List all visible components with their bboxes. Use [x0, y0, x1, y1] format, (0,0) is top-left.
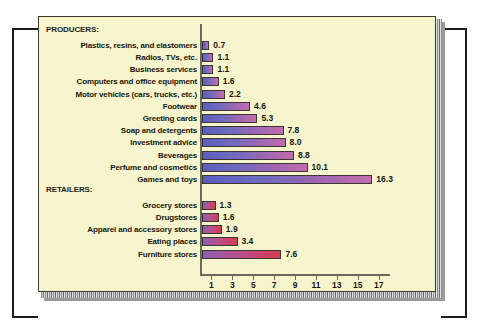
axis-tick-label: 7	[264, 280, 284, 290]
bar-value-label: 8.0	[290, 137, 302, 148]
bar-value-label: 1.1	[217, 52, 229, 63]
bracket-right-bottom-arm	[441, 316, 467, 318]
bar-category-label: Drugstores	[43, 212, 197, 223]
axis-tick-label: 15	[348, 280, 368, 290]
bar-row: Beverages8.8	[39, 150, 436, 162]
group-header-retailers: RETAILERS:	[46, 185, 92, 194]
bar-value-label: 7.6	[285, 249, 297, 260]
bar-category-label: Eating places	[43, 236, 197, 247]
bar-category-label: Business services	[43, 64, 197, 75]
chart-card: PRODUCERS:Plastics, resins, and elastome…	[38, 16, 436, 292]
bar-row: Perfume and cosmetics10.1	[39, 162, 436, 174]
bar-row: Games and toys16.3	[39, 174, 436, 186]
bar-row: Investment advice8.0	[39, 137, 436, 149]
bar-value-label: 3.4	[242, 236, 254, 247]
bar-category-label: Perfume and cosmetics	[43, 162, 197, 173]
bar-row: Plastics, resins, and elastomers0.7	[39, 40, 436, 52]
axis-tick-label: 17	[369, 280, 389, 290]
bar-row: Eating places3.4	[39, 236, 436, 248]
bar	[202, 65, 213, 74]
bar-value-label: 2.2	[229, 89, 241, 100]
bar	[202, 126, 284, 135]
bracket-left-bottom-arm	[12, 316, 38, 318]
group-header-producers: PRODUCERS:	[46, 25, 99, 34]
bar-row: Grocery stores1.3	[39, 200, 436, 212]
axis-tick-label: 13	[327, 280, 347, 290]
bracket-left-top-arm	[12, 28, 38, 30]
bar	[202, 138, 286, 147]
bar-category-label: Computers and office equipment	[43, 76, 197, 87]
axis-tick-label: 1	[201, 280, 221, 290]
bar-value-label: 1.1	[217, 64, 229, 75]
page-root: PRODUCERS:Plastics, resins, and elastome…	[0, 0, 479, 335]
bar	[202, 163, 308, 172]
bar-value-label: 10.1	[312, 162, 329, 173]
bar-category-label: Grocery stores	[43, 200, 197, 211]
bar-category-label: Motor vehicles (cars, trucks, etc.)	[43, 89, 197, 100]
bar-value-label: 7.8	[288, 125, 300, 136]
bar-category-label: Apparel and accessory stores	[43, 224, 197, 235]
bar	[202, 213, 219, 222]
bar-category-label: Greeting cards	[43, 113, 197, 124]
bracket-right-vertical	[465, 28, 467, 318]
bar	[202, 225, 222, 234]
bar-value-label: 0.7	[213, 40, 225, 51]
bar-row: Apparel and accessory stores1.9	[39, 224, 436, 236]
bar-category-label: Radios, TVs, etc.	[43, 52, 197, 63]
bar-category-label: Games and toys	[43, 174, 197, 185]
bar-value-label: 1.6	[223, 76, 235, 87]
axis-tick-label: 5	[243, 280, 263, 290]
bar	[202, 53, 213, 62]
bar	[202, 175, 372, 184]
axis-tick-label: 9	[285, 280, 305, 290]
bar-row: Business services1.1	[39, 64, 436, 76]
bar-value-label: 1.3	[220, 200, 232, 211]
bar-row: Footwear4.6	[39, 101, 436, 113]
bar	[202, 237, 238, 246]
bar-category-label: Furniture stores	[43, 249, 197, 260]
bar-value-label: 5.3	[261, 113, 273, 124]
bar-chart-plot: PRODUCERS:Plastics, resins, and elastome…	[39, 17, 435, 291]
axis-tick-label: 3	[222, 280, 242, 290]
bar-value-label: 4.6	[254, 101, 266, 112]
bar-row: Soap and detergents7.8	[39, 125, 436, 137]
bar-row: Greeting cards5.3	[39, 113, 436, 125]
bar	[202, 114, 257, 123]
bracket-left-vertical	[12, 28, 14, 318]
bar-value-label: 16.3	[376, 174, 393, 185]
bar-row: Radios, TVs, etc.1.1	[39, 52, 436, 64]
bar-value-label: 1.9	[226, 224, 238, 235]
bar	[202, 201, 216, 210]
bar	[202, 151, 294, 160]
bar	[202, 77, 219, 86]
bar	[202, 250, 281, 259]
bar	[202, 41, 209, 50]
bar-row: Computers and office equipment1.6	[39, 76, 436, 88]
bar-value-label: 8.8	[298, 150, 310, 161]
bar-row: Furniture stores7.6	[39, 249, 436, 261]
bar-row: Drugstores1.6	[39, 212, 436, 224]
bar	[202, 102, 250, 111]
bar-category-label: Footwear	[43, 101, 197, 112]
bar-value-label: 1.6	[223, 212, 235, 223]
bar-category-label: Soap and detergents	[43, 125, 197, 136]
bar-row: Motor vehicles (cars, trucks, etc.)2.2	[39, 89, 436, 101]
bar	[202, 90, 225, 99]
bar-category-label: Investment advice	[43, 137, 197, 148]
axis-tick-label: 11	[306, 280, 326, 290]
bar-category-label: Beverages	[43, 150, 197, 161]
bar-category-label: Plastics, resins, and elastomers	[43, 40, 197, 51]
